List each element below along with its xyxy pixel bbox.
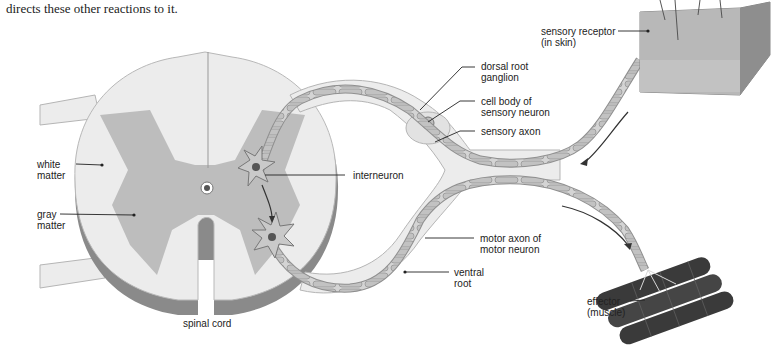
label-line: cell body of	[481, 96, 550, 107]
label-line: matter	[37, 220, 65, 231]
label-line: sensory receptor	[541, 26, 615, 37]
label-line: dorsal root	[481, 61, 528, 72]
label-ventral-root: ventral root	[454, 267, 484, 289]
label-dorsal-root-ganglion: dorsal root ganglion	[481, 61, 528, 83]
label-interneuron: interneuron	[353, 170, 404, 181]
label-line: motor axon of	[480, 233, 541, 244]
label-line: (in skin)	[541, 37, 615, 48]
label-line: ventral	[454, 267, 484, 278]
label-line: sensory neuron	[481, 107, 550, 118]
label-cell-body: cell body of sensory neuron	[481, 96, 550, 118]
label-line: white	[37, 159, 65, 170]
skin-block	[640, 0, 770, 95]
label-line: ganglion	[481, 72, 528, 83]
label-line: root	[454, 278, 484, 289]
label-gray-matter: gray matter	[37, 209, 65, 231]
label-effector: effector (muscle)	[587, 296, 625, 318]
label-sensory-receptor: sensory receptor (in skin)	[541, 26, 615, 48]
label-white-matter: white matter	[37, 159, 65, 181]
label-motor-axon: motor axon of motor neuron	[480, 233, 541, 255]
label-line: matter	[37, 170, 65, 181]
label-line: motor neuron	[480, 244, 541, 255]
label-line: (muscle)	[587, 307, 625, 318]
label-line: effector	[587, 296, 625, 307]
label-sensory-axon: sensory axon	[481, 126, 540, 137]
label-line: gray	[37, 209, 65, 220]
sensory-arrow-head	[580, 158, 588, 166]
label-spinal-cord: spinal cord	[183, 318, 231, 329]
